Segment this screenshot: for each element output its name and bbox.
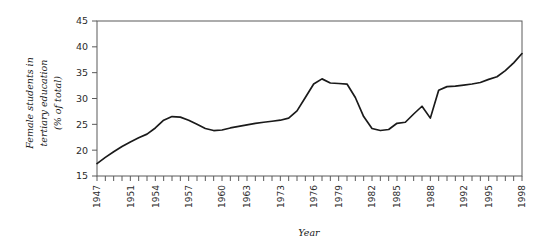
- y-tick-label: 45: [76, 15, 88, 26]
- y-tick-label: 35: [76, 67, 88, 78]
- x-tick-label: 1982: [367, 185, 377, 208]
- y-axis-title-line-3: (% of total): [52, 76, 63, 130]
- x-axis-title: Year: [298, 227, 321, 238]
- x-tick-label: 1979: [334, 185, 344, 208]
- data-series-line: [97, 54, 522, 164]
- y-axis-title: Female students in tertiary education (%…: [24, 57, 63, 150]
- y-tick-label: 25: [76, 119, 88, 130]
- x-tick-label: 1954: [151, 185, 161, 208]
- y-tick-label: 20: [76, 145, 88, 156]
- plot-frame: [97, 21, 522, 176]
- x-tick-label: 1995: [484, 185, 494, 208]
- y-tick-label: 30: [76, 93, 88, 104]
- y-tick-label: 40: [76, 41, 88, 52]
- y-tick-label: 15: [76, 170, 88, 181]
- x-tick-label: 1951: [126, 185, 136, 208]
- line-chart: Female students in tertiary education (%…: [0, 0, 544, 242]
- x-tick-label: 1960: [217, 185, 227, 208]
- y-axis-ticks: 15202530354045: [76, 15, 97, 181]
- x-tick-label: 1985: [392, 185, 402, 208]
- chart-figure: Female students in tertiary education (%…: [0, 0, 544, 242]
- x-tick-label: 1973: [276, 185, 286, 208]
- x-tick-label: 1957: [184, 185, 194, 208]
- x-tick-label: 1947: [92, 185, 102, 208]
- y-axis-title-line-1: Female students in: [24, 57, 35, 150]
- x-tick-label: 1998: [517, 185, 527, 208]
- x-axis-ticks: 1947195119541957196019631973197619791982…: [92, 176, 527, 208]
- x-tick-label: 1992: [459, 185, 469, 208]
- y-axis-title-line-2: tertiary education: [38, 60, 49, 147]
- x-tick-label: 1988: [426, 185, 436, 208]
- x-tick-label: 1963: [242, 185, 252, 208]
- x-tick-label: 1976: [309, 185, 319, 208]
